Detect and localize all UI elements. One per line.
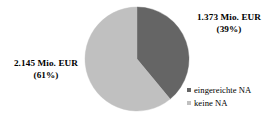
data-label-value: 2.145 Mio. EUR — [2, 58, 90, 70]
data-label-keine-na: 2.145 Mio. EUR (61%) — [2, 58, 90, 81]
pie-chart-figure: 1.373 Mio. EUR (39%) 2.145 Mio. EUR (61%… — [0, 0, 276, 119]
legend-item-keine-na: keine NA — [187, 96, 275, 109]
data-label-percent: (61%) — [2, 70, 90, 82]
pie-chart-graphic — [84, 6, 190, 112]
legend-swatch-icon — [187, 88, 191, 92]
data-label-eingereichte-na: 1.373 Mio. EUR (39%) — [184, 12, 274, 35]
data-label-percent: (39%) — [184, 24, 274, 36]
legend-swatch-icon — [187, 101, 191, 105]
legend-item-label: eingereichte NA — [194, 85, 251, 95]
legend-item-label: keine NA — [194, 98, 228, 108]
legend-item-eingereichte-na: eingereichte NA — [187, 83, 275, 96]
chart-legend: eingereichte NA keine NA — [187, 83, 275, 109]
data-label-value: 1.373 Mio. EUR — [184, 12, 274, 24]
